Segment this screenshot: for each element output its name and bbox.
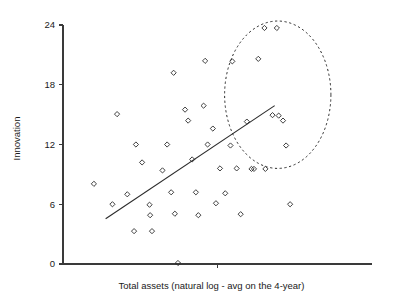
y-tick-label: 6 — [50, 199, 55, 210]
y-axis-title: Innovation — [11, 117, 22, 161]
y-tick-label: 12 — [44, 139, 55, 150]
y-tick-label: 0 — [50, 258, 55, 269]
data-point-marker — [165, 142, 170, 147]
data-points — [91, 25, 292, 265]
data-point-marker — [196, 213, 201, 218]
data-point-marker — [175, 260, 180, 265]
data-point-marker — [114, 112, 119, 117]
y-tick-label: 24 — [44, 19, 55, 30]
data-point-marker — [288, 202, 293, 207]
data-point-marker — [182, 107, 187, 112]
data-point-marker — [223, 191, 228, 196]
data-point-marker — [283, 143, 288, 148]
chart-annotations — [225, 21, 331, 168]
y-axis-ticks: 06121824 — [44, 19, 63, 269]
data-point-marker — [147, 202, 152, 207]
data-point-marker — [203, 58, 208, 63]
y-tick-label: 18 — [44, 79, 55, 90]
scatter-chart-figure: 06121824 Total assets (natural log - avg… — [0, 0, 400, 302]
data-point-marker — [234, 166, 239, 171]
data-point-marker — [193, 190, 198, 195]
data-point-marker — [186, 118, 191, 123]
data-point-marker — [171, 70, 176, 75]
data-point-marker — [276, 113, 281, 118]
data-point-marker — [133, 142, 138, 147]
data-point-marker — [169, 190, 174, 195]
data-point-marker — [125, 192, 130, 197]
data-point-marker — [238, 212, 243, 217]
data-point-marker — [148, 213, 153, 218]
data-point-marker — [228, 143, 233, 148]
data-point-marker — [91, 181, 96, 186]
data-point-marker — [172, 211, 177, 216]
data-point-marker — [210, 126, 215, 131]
data-point-marker — [274, 25, 279, 30]
data-point-marker — [256, 56, 261, 61]
data-point-marker — [140, 160, 145, 165]
data-point-marker — [217, 166, 222, 171]
data-point-marker — [213, 201, 218, 206]
data-point-marker — [149, 229, 154, 234]
data-point-marker — [230, 59, 235, 64]
data-point-marker — [201, 103, 206, 108]
data-point-marker — [160, 168, 165, 173]
regression-line — [106, 106, 275, 219]
x-axis-title: Total assets (natural log - avg on the 4… — [119, 280, 305, 291]
data-point-marker — [262, 25, 267, 30]
trend-line-group — [106, 106, 275, 219]
data-point-marker — [280, 118, 285, 123]
outlier-group-ellipse — [225, 21, 331, 168]
data-point-marker — [131, 229, 136, 234]
chart-canvas: 06121824 Total assets (natural log - avg… — [0, 0, 400, 302]
data-point-marker — [270, 113, 275, 118]
data-point-marker — [110, 202, 115, 207]
data-point-marker — [205, 142, 210, 147]
